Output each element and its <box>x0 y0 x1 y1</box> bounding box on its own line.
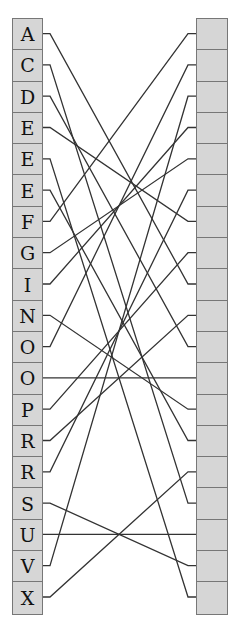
connection-line <box>43 65 196 503</box>
connection-line <box>43 96 196 566</box>
connection-line <box>43 34 196 284</box>
connection-wires <box>0 0 241 631</box>
connection-line <box>43 65 196 347</box>
